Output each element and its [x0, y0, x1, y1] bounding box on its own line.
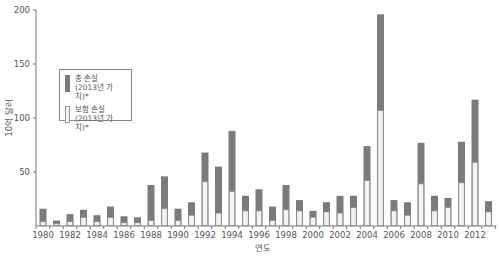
- x-tick-label: 1980: [32, 230, 54, 240]
- insured-loss-bar: [40, 222, 46, 226]
- insured-loss-swatch: [65, 106, 70, 123]
- insured-loss-bar: [486, 212, 492, 226]
- x-tick-label: 2006: [383, 230, 405, 240]
- x-tick-label: 1986: [113, 230, 135, 240]
- insured-loss-bar: [256, 211, 262, 226]
- x-tick-label: 2004: [356, 230, 378, 240]
- insured-loss-bar: [148, 221, 154, 226]
- x-tick-label: 1994: [221, 230, 243, 240]
- legend-sublabel: (2013년 가치)*: [75, 114, 127, 132]
- x-tick-label: 1992: [194, 230, 216, 240]
- insured-loss-bar: [135, 223, 141, 226]
- y-axis: 50100150200: [14, 5, 36, 226]
- insured-loss-bar: [432, 211, 438, 226]
- x-axis-title: 연도: [255, 243, 271, 253]
- insured-loss-bar: [405, 215, 411, 225]
- insured-loss-bar: [418, 184, 424, 226]
- total-loss-swatch: [65, 75, 70, 92]
- insured-loss-bar: [270, 221, 276, 226]
- insured-loss-bar: [459, 183, 465, 226]
- y-axis-title: 10억 달러: [4, 99, 14, 137]
- x-tick-label: 1982: [59, 230, 81, 240]
- legend-item-total-loss: 총 손실 (2013년 가치)*: [65, 74, 127, 101]
- insured-loss-bar: [351, 208, 357, 226]
- x-tick-label: 1998: [275, 230, 297, 240]
- x-tick-label: 2010: [437, 230, 459, 240]
- y-tick-label: 150: [14, 59, 30, 69]
- y-tick-label: 50: [19, 167, 30, 177]
- x-tick-label: 1984: [86, 230, 108, 240]
- y-tick-label: 100: [14, 113, 30, 123]
- insured-loss-bar: [94, 222, 100, 226]
- y-tick-label: 200: [14, 5, 30, 15]
- insured-loss-bar: [391, 211, 397, 226]
- x-tick-label: 2002: [329, 230, 351, 240]
- insured-loss-bar: [310, 217, 316, 225]
- legend-label: 보험 손실: [75, 105, 127, 114]
- legend-item-insured-loss: 보험 손실 (2013년 가치)*: [65, 105, 127, 132]
- legend: 총 손실 (2013년 가치)* 보험 손실 (2013년 가치)*: [59, 69, 132, 121]
- insured-loss-bar: [229, 191, 235, 225]
- insured-loss-bar: [324, 212, 330, 226]
- x-tick-label: 2000: [302, 230, 324, 240]
- x-axis: 1980198219841986198819901992199419961998…: [32, 226, 496, 240]
- insured-loss-bar: [189, 215, 195, 225]
- insured-loss-bar: [364, 181, 370, 226]
- insured-loss-bar: [54, 224, 60, 226]
- x-tick-label: 1990: [167, 230, 189, 240]
- total-loss-bar: [148, 185, 155, 226]
- insured-loss-bar: [445, 208, 451, 226]
- insured-loss-bar: [202, 182, 208, 226]
- x-tick-label: 2012: [464, 230, 486, 240]
- insured-loss-bar: [162, 209, 168, 226]
- insured-loss-bar: [67, 222, 73, 226]
- insured-loss-bar: [283, 210, 289, 226]
- insured-loss-bar: [472, 162, 478, 225]
- x-tick-label: 1996: [248, 230, 270, 240]
- insured-loss-bar: [378, 110, 384, 225]
- insured-loss-bar: [297, 211, 303, 226]
- insured-loss-bar: [121, 223, 127, 226]
- insured-loss-bar: [337, 213, 343, 225]
- legend-label: 총 손실: [75, 74, 127, 83]
- legend-sublabel: (2013년 가치)*: [75, 83, 127, 101]
- insured-loss-bar: [175, 221, 181, 226]
- insured-loss-bar: [243, 211, 249, 226]
- x-tick-label: 1988: [140, 230, 162, 240]
- insured-loss-bar: [216, 213, 222, 225]
- insured-loss-bar: [108, 217, 114, 225]
- x-tick-label: 2008: [410, 230, 432, 240]
- insured-loss-bar: [81, 217, 87, 225]
